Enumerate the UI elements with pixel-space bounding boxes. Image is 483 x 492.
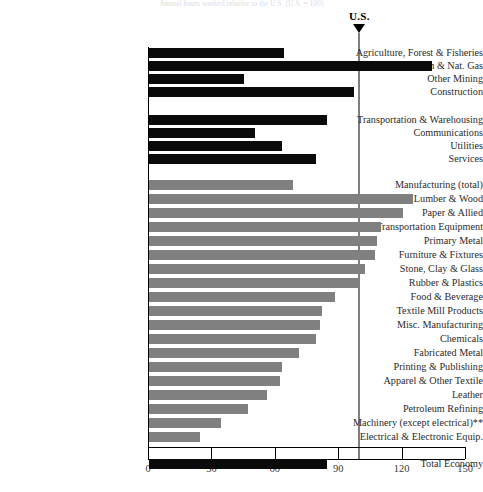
- category-label: Apparel & Other Textile: [338, 375, 483, 386]
- category-label: Construction: [338, 86, 483, 97]
- bar: [149, 154, 316, 164]
- bar-chart-figure: Annual hours worked relative to the U.S.…: [0, 0, 483, 492]
- category-label: Total Economy: [338, 458, 483, 469]
- bar: [149, 194, 413, 204]
- category-label: Food & Beverage: [338, 291, 483, 302]
- bar: [149, 306, 322, 316]
- x-axis-tick: [211, 447, 212, 459]
- us-reference-arrow-icon: [353, 24, 365, 33]
- bar: [149, 87, 354, 97]
- category-label: Transportation & Warehousing: [338, 114, 483, 125]
- bar: [149, 404, 248, 414]
- bar: [149, 264, 365, 274]
- us-reference-label: U.S.: [349, 10, 370, 22]
- category-label: Utilities: [338, 140, 483, 151]
- bar: [149, 128, 255, 138]
- category-label: Fabricated Metal: [338, 347, 483, 358]
- bar: [149, 222, 381, 232]
- bar: [149, 432, 200, 442]
- category-label: Textile Mill Products: [338, 305, 483, 316]
- bar: [149, 61, 432, 71]
- bar: [149, 278, 360, 288]
- bar: [149, 292, 335, 302]
- x-axis-tick: [148, 447, 149, 459]
- x-axis-tick: [275, 447, 276, 459]
- bar: [149, 418, 221, 428]
- bar: [149, 48, 284, 58]
- category-label: Services: [338, 153, 483, 164]
- category-label: Manufacturing (total): [338, 179, 483, 190]
- category-label: Other Mining: [338, 73, 483, 84]
- bar: [149, 362, 282, 372]
- category-label: Misc. Manufacturing: [338, 319, 483, 330]
- category-label: Agriculture, Forest & Fisheries: [338, 47, 483, 58]
- bar: [149, 348, 299, 358]
- axis-box-top-line: [148, 447, 465, 448]
- bar: [149, 376, 280, 386]
- bar: [149, 141, 282, 151]
- bar: [149, 390, 267, 400]
- category-label: Chemicals: [338, 333, 483, 344]
- category-label: Leather: [338, 389, 483, 400]
- chart-title: Annual hours worked relative to the U.S.…: [0, 0, 483, 9]
- bar: [149, 334, 316, 344]
- bar: [149, 250, 375, 260]
- bar: [149, 236, 377, 246]
- bar: [149, 208, 403, 218]
- category-label: Electrical & Electronic Equip.: [338, 431, 483, 442]
- bar: [149, 459, 327, 469]
- category-label: Machinery (except electrical)**: [338, 417, 483, 428]
- bar: [149, 180, 293, 190]
- category-label: Petroleum Refining: [338, 403, 483, 414]
- bar: [149, 115, 327, 125]
- bar: [149, 74, 244, 84]
- bar: [149, 320, 320, 330]
- category-label: Printing & Publishing: [338, 361, 483, 372]
- category-label: Communications: [338, 127, 483, 138]
